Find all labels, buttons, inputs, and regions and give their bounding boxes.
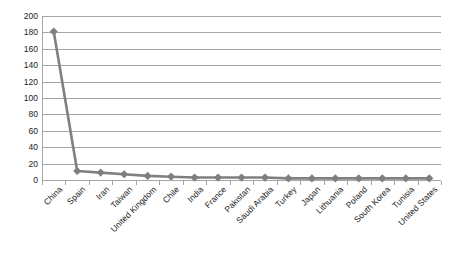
data-point-marker [144,172,152,180]
data-point-marker [214,173,222,181]
data-point-marker [120,170,128,178]
data-point-marker [190,173,198,181]
data-point-marker [355,174,363,182]
data-point-marker [308,174,316,182]
data-point-marker [261,173,269,181]
data-point-marker [331,174,339,182]
data-point-marker [425,174,433,182]
data-point-marker [97,169,105,177]
line-chart: 200180160140120100806040200 ChinaSpainIr… [0,0,459,253]
data-point-marker [284,174,292,182]
data-point-marker [378,174,386,182]
data-point-marker [73,167,81,175]
series-line [54,32,430,179]
series-markers [50,27,434,182]
data-point-marker [167,173,175,181]
data-point-marker [402,174,410,182]
data-point-marker [237,173,245,181]
data-point-marker [50,27,58,35]
